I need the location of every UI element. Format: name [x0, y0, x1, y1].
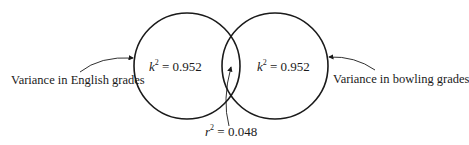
bowling-k2-value: k2 = 0.952: [257, 58, 310, 75]
bowling-arrow: [329, 57, 375, 70]
k2-text: = 0.952: [162, 59, 202, 74]
r2-text: = 0.048: [217, 124, 257, 139]
overlap-r2-value: r2 = 0.048: [205, 123, 257, 140]
k2-text: = 0.952: [270, 59, 310, 74]
english-arrow: [80, 58, 133, 72]
bowling-label: Variance in bowling grades: [333, 72, 469, 87]
exp: 2: [155, 58, 159, 67]
english-label: Variance in English grades: [11, 73, 145, 88]
exp: 2: [263, 58, 267, 67]
english-k2-value: k2 = 0.952: [149, 58, 202, 75]
exp: 2: [210, 123, 214, 132]
